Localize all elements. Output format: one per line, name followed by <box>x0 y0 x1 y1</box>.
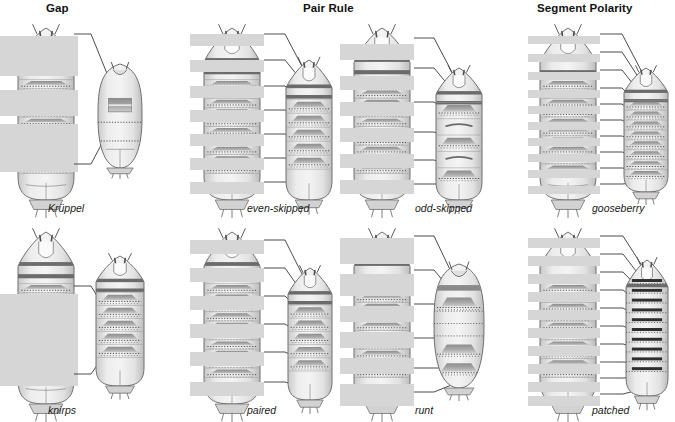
gene-panel-kruppel <box>0 24 160 214</box>
expression-band <box>190 134 264 146</box>
gene-panel-knirps <box>0 228 160 418</box>
expression-band <box>0 90 78 116</box>
mutant-larva <box>98 62 142 179</box>
gene-label-knirps: knirps <box>48 404 76 416</box>
mutant-larva <box>435 65 483 214</box>
expression-band <box>528 72 600 80</box>
gene-panel-even-skipped <box>186 24 346 214</box>
expression-band <box>528 90 600 98</box>
mutant-larva <box>433 262 485 402</box>
pointer-line <box>264 240 306 282</box>
larva-diagram-patched <box>522 228 675 418</box>
expression-band <box>528 328 600 338</box>
gene-panel-runt <box>336 228 496 418</box>
expression-band <box>528 170 600 178</box>
expression-band <box>340 358 414 374</box>
expression-band <box>528 396 600 406</box>
larva-diagram-runt <box>336 228 496 418</box>
expression-band <box>528 238 600 248</box>
expression-band <box>528 382 600 392</box>
larva-diagram-gooseberry <box>522 24 675 214</box>
larva-diagram-knirps <box>0 228 160 418</box>
expression-band <box>528 106 600 114</box>
expression-band <box>190 296 264 310</box>
expression-band <box>340 44 414 60</box>
expression-band <box>190 110 264 122</box>
mutant-larva <box>285 57 333 215</box>
expression-band <box>340 332 414 348</box>
expression-band <box>528 346 600 356</box>
expression-band <box>528 274 600 284</box>
expression-band <box>0 124 78 172</box>
expression-band <box>190 268 264 282</box>
expression-band <box>528 54 600 62</box>
pointer-line <box>74 34 108 76</box>
expression-band <box>190 324 264 338</box>
expression-band <box>340 154 414 168</box>
mutant-larva <box>95 253 145 400</box>
larva-diagram-even-skipped <box>186 24 346 214</box>
expression-band <box>528 310 600 320</box>
larva-diagram-odd-skipped <box>336 24 496 214</box>
expression-band <box>190 182 264 194</box>
mutant-larva <box>623 65 669 205</box>
gene-panel-odd-skipped <box>336 24 496 214</box>
expression-band <box>340 128 414 142</box>
expression-band <box>190 86 264 98</box>
expression-band <box>340 384 414 406</box>
expression-band <box>528 122 600 130</box>
expression-band <box>528 186 600 194</box>
expression-band <box>340 306 414 322</box>
gene-panel-patched <box>522 228 675 418</box>
expression-band <box>0 294 78 386</box>
expression-band <box>340 76 414 90</box>
class-title-pair-rule: Pair Rule <box>303 2 354 14</box>
expression-band <box>190 240 264 254</box>
expression-band <box>528 154 600 162</box>
expression-band <box>340 102 414 116</box>
expression-bands <box>0 36 78 172</box>
class-title-gap: Gap <box>46 2 69 14</box>
gene-label-patched: patched <box>592 404 629 416</box>
pointer-line <box>414 38 454 76</box>
expression-band <box>340 180 414 194</box>
expression-band <box>190 34 264 46</box>
larva-diagram-kruppel <box>0 24 160 214</box>
larva-diagram-paired <box>186 228 346 418</box>
expression-band <box>528 256 600 266</box>
gene-label-gooseberry: gooseberry <box>592 202 645 214</box>
expression-band <box>0 36 78 76</box>
class-title-segment-polarity: Segment Polarity <box>537 2 633 14</box>
expression-band <box>340 238 414 264</box>
gene-label-odd-skipped: odd-skipped <box>415 202 472 214</box>
gene-label-runt: runt <box>415 404 433 416</box>
segmentation-gene-figure: GapPair RuleSegment PolarityKrüppelknirp… <box>0 0 675 422</box>
expression-band <box>528 36 600 44</box>
gene-label-paired: paired <box>247 404 276 416</box>
expression-band <box>528 138 600 146</box>
expression-bands <box>0 294 78 386</box>
expression-band <box>190 60 264 72</box>
gene-label-kruppel: Krüppel <box>48 202 84 214</box>
mutant-larva <box>287 265 333 414</box>
gene-label-even-skipped: even-skipped <box>247 202 309 214</box>
mutant-larva <box>625 257 669 410</box>
expression-band <box>190 382 264 396</box>
expression-band <box>190 158 264 170</box>
gene-panel-gooseberry <box>522 24 675 214</box>
expression-band <box>340 274 414 296</box>
gene-panel-paired <box>186 228 346 418</box>
expression-band <box>528 364 600 374</box>
expression-band <box>190 352 264 366</box>
expression-band <box>528 292 600 302</box>
